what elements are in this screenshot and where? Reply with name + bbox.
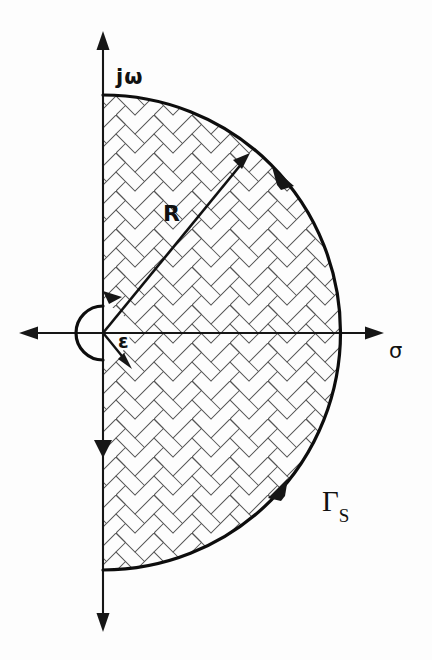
contour-name-subscript: S: [339, 505, 350, 526]
contour-diagram-svg: [0, 0, 432, 660]
real-axis-label: σ: [389, 341, 402, 362]
contour-name-gamma: Γ: [322, 485, 339, 517]
nyquist-contour-figure: jω R ε σ ΓS: [0, 0, 432, 660]
radius-label: R: [163, 203, 180, 225]
epsilon-label: ε: [118, 332, 129, 351]
imaginary-axis-label: jω: [116, 67, 143, 88]
contour-name-label: ΓS: [322, 487, 349, 521]
